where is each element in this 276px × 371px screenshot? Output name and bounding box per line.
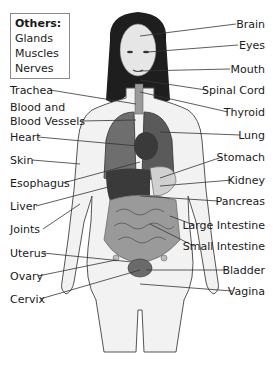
label-bladder: Bladder	[222, 264, 265, 277]
face	[120, 24, 156, 76]
label-cervix: Cervix	[10, 293, 45, 306]
label-eyes: Eyes	[239, 39, 265, 52]
label-pancreas: Pancreas	[216, 195, 265, 208]
label-liver: Liver	[10, 200, 37, 213]
others-item-muscles: Muscles	[15, 46, 65, 61]
label-esophagus: Esophagus	[10, 177, 70, 190]
label-spinal-cord: Spinal Cord	[202, 84, 265, 97]
label-lung: Lung	[238, 129, 265, 142]
label-blood-vessels: Blood Vessels	[10, 115, 85, 128]
label-skin: Skin	[10, 154, 33, 167]
others-title: Others:	[15, 16, 65, 31]
label-large-intestine: Large Intestine	[182, 219, 265, 232]
label-blood-and: Blood and	[10, 101, 65, 114]
label-heart: Heart	[10, 131, 41, 144]
others-item-glands: Glands	[15, 31, 65, 46]
label-joints: Joints	[10, 223, 40, 236]
ovary-right	[161, 255, 167, 261]
label-kidney: Kidney	[227, 174, 265, 187]
label-brain: Brain	[236, 18, 265, 31]
trachea	[135, 84, 143, 114]
label-uterus: Uterus	[10, 247, 46, 260]
label-ovary: Ovary	[10, 270, 43, 283]
label-small-intestine: Small Intestine	[183, 240, 265, 253]
label-trachea: Trachea	[10, 84, 53, 97]
label-mouth: Mouth	[231, 63, 265, 76]
label-stomach: Stomach	[216, 151, 265, 164]
label-vagina: Vagina	[228, 285, 265, 298]
label-thyroid: Thyroid	[224, 106, 265, 119]
others-box: Others: Glands Muscles Nerves	[10, 13, 70, 79]
others-item-nerves: Nerves	[15, 61, 65, 76]
eye-left	[127, 51, 133, 54]
